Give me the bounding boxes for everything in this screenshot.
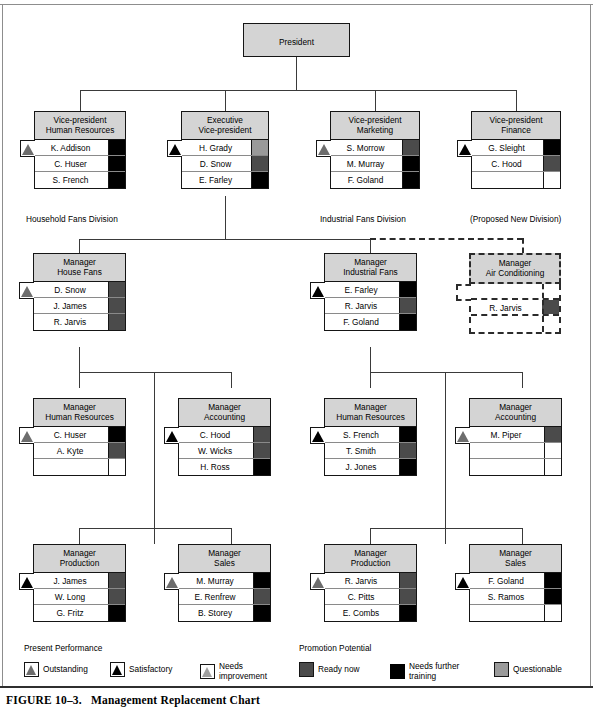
unit-executive-vice-president[interactable]: Executive Vice-president H. Grady D. Sno…: [181, 111, 269, 189]
potential-swatch: [108, 156, 125, 171]
person-name: E. Renfrew: [179, 589, 253, 604]
square-gray-icon: [494, 662, 509, 677]
person-row[interactable]: R. Jarvis: [34, 314, 125, 330]
square-black-icon: [390, 664, 405, 679]
person-row[interactable]: E. Farley: [182, 172, 268, 188]
unit-title: Manager Production: [324, 544, 417, 573]
person-row[interactable]: F. Goland: [470, 573, 561, 589]
unit-manager-industrial-fans[interactable]: Manager Industrial Fans E. Farley R. Jar…: [324, 253, 417, 331]
potential-swatch: [108, 172, 125, 188]
unit-manager-air-conditioning[interactable]: Manager Air Conditioning R. Jarvis: [469, 253, 561, 334]
performance-triangle-icon: [19, 282, 34, 299]
potential-swatch: [542, 300, 559, 314]
person-row[interactable]: [471, 316, 559, 332]
person-row[interactable]: M. Murray: [179, 573, 270, 589]
unit-manager-human-resources-household[interactable]: Manager Human Resources C. Huser A. Kyte: [33, 398, 126, 476]
unit-title-line1: Vice-president: [349, 115, 402, 125]
person-row[interactable]: C. Huser: [35, 156, 125, 172]
unit-manager-accounting-household[interactable]: Manager Accounting C. Hood W. Wicks H. R…: [178, 398, 271, 476]
person-row[interactable]: H. Grady: [182, 140, 268, 156]
potential-swatch: [544, 459, 561, 475]
person-row[interactable]: M. Piper: [470, 427, 561, 443]
person-row[interactable]: M. Murray: [331, 156, 419, 172]
person-row[interactable]: E. Combs: [325, 605, 416, 621]
person-row[interactable]: B. Storey: [179, 605, 270, 621]
person-row[interactable]: R. Jarvis: [471, 300, 559, 316]
person-row[interactable]: [34, 459, 125, 475]
unit-title-line2: Marketing: [333, 125, 417, 135]
person-name: E. Combs: [325, 605, 399, 621]
person-name: [34, 459, 108, 475]
unit-manager-sales-industrial[interactable]: Manager Sales F. Goland S. Ramos: [469, 544, 562, 622]
person-row[interactable]: [470, 459, 561, 475]
triangle-black-icon: [110, 662, 125, 677]
unit-title-line1: Manager: [499, 548, 532, 558]
person-row[interactable]: S. Ramos: [470, 589, 561, 605]
figure-caption: FIGURE 10–3.Management Replacement Chart: [6, 694, 260, 706]
unit-manager-sales-household[interactable]: Manager Sales M. Murray E. Renfrew B. St…: [178, 544, 271, 622]
person-name: K. Addison: [35, 140, 108, 155]
unit-people: H. Grady D. Snow E. Farley: [181, 140, 269, 189]
unit-vp-finance[interactable]: Vice-president Finance G. Sleight C. Hoo…: [471, 111, 561, 189]
person-row[interactable]: C. Pitts: [325, 589, 416, 605]
person-row[interactable]: J. James: [34, 573, 125, 589]
unit-manager-house-fans[interactable]: Manager House Fans D. Snow J. James R. J…: [33, 253, 126, 331]
unit-title: President: [243, 23, 350, 57]
unit-manager-production-industrial[interactable]: Manager Production R. Jarvis C. Pitts E.…: [324, 544, 417, 622]
person-row[interactable]: F. Goland: [325, 314, 416, 330]
unit-title: Vice-president Finance: [471, 111, 561, 140]
unit-title-line1: Vice-president: [54, 115, 107, 125]
person-row[interactable]: G. Fritz: [34, 605, 125, 621]
person-row[interactable]: E. Farley: [325, 282, 416, 298]
person-row[interactable]: [471, 284, 559, 300]
person-row[interactable]: R. Jarvis: [325, 298, 416, 314]
person-row[interactable]: F. Goland: [331, 172, 419, 188]
unit-vp-marketing[interactable]: Vice-president Marketing S. Morrow M. Mu…: [330, 111, 420, 189]
unit-people: D. Snow J. James R. Jarvis: [33, 282, 126, 331]
person-row[interactable]: [472, 172, 560, 188]
unit-president[interactable]: President: [243, 23, 350, 57]
person-row[interactable]: [470, 443, 561, 459]
person-row[interactable]: D. Snow: [182, 156, 268, 172]
person-row[interactable]: C. Hood: [472, 156, 560, 172]
chart-legend: Present Performance Outstanding Satisfac…: [0, 640, 593, 686]
person-row[interactable]: R. Jarvis: [325, 573, 416, 589]
potential-swatch: [108, 314, 125, 330]
legend-label: Satisfactory: [129, 665, 172, 675]
person-name: C. Huser: [35, 156, 108, 171]
person-row[interactable]: C. Huser: [34, 427, 125, 443]
unit-manager-human-resources-industrial[interactable]: Manager Human Resources S. French T. Smi…: [324, 398, 417, 476]
triangle-gray-icon: [24, 662, 39, 677]
unit-people: J. James W. Long G. Fritz: [33, 573, 126, 622]
unit-title-line2: Sales: [472, 558, 559, 568]
person-row[interactable]: S. French: [325, 427, 416, 443]
person-row[interactable]: D. Snow: [34, 282, 125, 298]
person-name: [470, 459, 544, 475]
person-name: T. Smith: [325, 443, 399, 458]
unit-manager-accounting-industrial[interactable]: Manager Accounting M. Piper: [469, 398, 562, 476]
person-row[interactable]: W. Wicks: [179, 443, 270, 459]
potential-swatch: [399, 589, 416, 604]
person-row[interactable]: T. Smith: [325, 443, 416, 459]
person-row[interactable]: S. French: [35, 172, 125, 188]
person-row[interactable]: [470, 605, 561, 621]
person-name: H. Grady: [182, 140, 251, 155]
person-row[interactable]: H. Ross: [179, 459, 270, 475]
connector-industrial-tier4-bus: [370, 528, 522, 529]
person-row[interactable]: G. Sleight: [472, 140, 560, 156]
person-row[interactable]: E. Renfrew: [179, 589, 270, 605]
person-row[interactable]: S. Morrow: [331, 140, 419, 156]
person-row[interactable]: J. James: [34, 298, 125, 314]
person-row[interactable]: K. Addison: [35, 140, 125, 156]
person-row[interactable]: W. Long: [34, 589, 125, 605]
unit-vp-human-resources[interactable]: Vice-president Human Resources K. Addiso…: [34, 111, 126, 189]
person-name: R. Jarvis: [34, 314, 108, 330]
person-row[interactable]: A. Kyte: [34, 443, 125, 459]
unit-title: Manager Accounting: [469, 398, 562, 427]
person-name: E. Farley: [182, 172, 251, 188]
unit-manager-production-household[interactable]: Manager Production J. James W. Long G. F…: [33, 544, 126, 622]
person-row[interactable]: J. Jones: [325, 459, 416, 475]
potential-swatch: [108, 140, 125, 155]
connector-industrial-production-drop: [370, 528, 371, 544]
person-row[interactable]: C. Hood: [179, 427, 270, 443]
